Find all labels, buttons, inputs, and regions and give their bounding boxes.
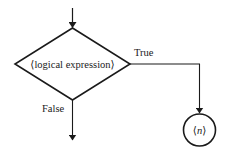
true-label: True [134, 47, 154, 58]
decision-label: ⟨logical expression⟩ [30, 59, 114, 70]
false-label: False [42, 103, 65, 114]
true-branch-edge [130, 64, 200, 113]
flowchart-canvas: ⟨logical expression⟩ True ⟨n⟩ False [0, 0, 229, 163]
connector-label: ⟨n⟩ [193, 125, 206, 136]
connector-close-bracket: ⟩ [202, 125, 206, 136]
connector-node: ⟨n⟩ [184, 114, 216, 146]
decision-node: ⟨logical expression⟩ [15, 28, 130, 100]
